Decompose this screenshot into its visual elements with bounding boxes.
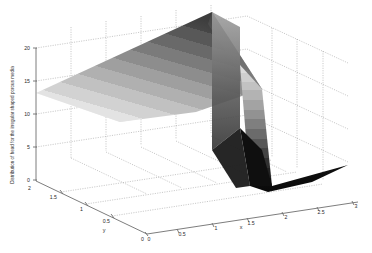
y-tick-label-0: 0 — [141, 236, 144, 242]
figure-container: 20 15 10 5 0 2 1.5 1 0.5 0 0 0.5 1 1.5 2… — [0, 0, 372, 253]
x-tick-marks — [177, 201, 354, 233]
y-tick-label-1p5: 1.5 — [50, 194, 57, 200]
y-axis-title: y — [103, 227, 106, 233]
z-axis-title: Distribution of head for the irregular s… — [10, 66, 15, 184]
x-axis-line — [147, 202, 358, 234]
z-tick-label-0: 0 — [27, 177, 30, 183]
x-tick-label-1p5: 1.5 — [247, 220, 254, 226]
z-tick-label-5: 5 — [27, 144, 30, 150]
y-tick-label-0p5: 0.5 — [103, 218, 110, 224]
z-tick-labels: 20 15 10 5 0 — [24, 45, 30, 183]
surface-drop-face-back — [212, 12, 240, 150]
x-tick-label-2: 2 — [285, 214, 288, 220]
surface-plot: 20 15 10 5 0 2 1.5 1 0.5 0 0 0.5 1 1.5 2… — [0, 0, 372, 253]
x-tick-label-0: 0 — [148, 236, 151, 242]
x-tick-label-1: 1 — [215, 225, 218, 231]
x-tick-labels: 0 0.5 1 1.5 2 2.5 3 — [148, 203, 358, 242]
z-tick-label-20: 20 — [24, 45, 30, 51]
y-tick-label-1: 1 — [80, 206, 83, 212]
z-tick-label-10: 10 — [24, 111, 30, 117]
z-tick-label-15: 15 — [24, 78, 30, 84]
right-wall-vertical-gridlines — [272, 28, 323, 180]
y-axis-line — [36, 181, 147, 234]
x-axis-title: x — [240, 224, 243, 230]
y-tick-label-2: 2 — [28, 185, 31, 191]
x-tick-label-0p5: 0.5 — [178, 231, 185, 237]
surface-mesh — [36, 12, 348, 192]
x-tick-label-3: 3 — [355, 203, 358, 209]
x-tick-label-2p5: 2.5 — [317, 209, 324, 215]
